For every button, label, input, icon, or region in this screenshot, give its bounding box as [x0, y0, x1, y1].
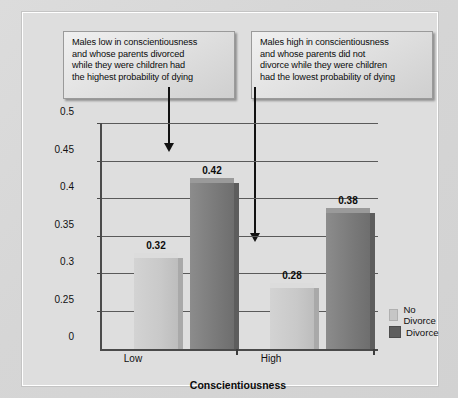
legend-item-no-divorce[interactable]: No Divorce [389, 308, 439, 322]
y-tickmark-0.3 [97, 273, 102, 274]
gridline-0.45 [102, 161, 378, 162]
legend-label-no-divorce: No Divorce [403, 304, 438, 326]
bar-front-face [326, 213, 370, 349]
bar-value-low-no-divorce: 0.32 [133, 240, 179, 251]
legend-label-divorce: Divorce [406, 327, 439, 338]
x-tickmark-high [373, 349, 375, 355]
x-category-label-high: High [236, 353, 306, 364]
bar-value-high-divorce: 0.38 [325, 195, 371, 206]
annotation-right-line-2: and whose parents did not [260, 49, 425, 61]
y-tick-label-0.35: 0.35 [32, 219, 74, 230]
annotation-right-line-1: Males high in conscientiousness [260, 37, 425, 49]
y-tick-label-0.5: 0.5 [32, 106, 74, 117]
plot-area: 0.32 0.42 0.28 0.38 [100, 123, 378, 351]
y-tickmark-0.35 [97, 236, 102, 237]
legend-swatch-divorce [389, 326, 401, 338]
y-tickmark-0.25 [97, 311, 102, 312]
bar-front-face [270, 288, 314, 349]
annotation-left-line-2: and whose parents divorced [72, 49, 227, 61]
bar-side-face [234, 183, 239, 349]
y-tickmark-0.45 [97, 161, 102, 162]
bar-low-no-divorce[interactable] [134, 258, 178, 349]
bar-value-high-no-divorce: 0.28 [269, 270, 315, 281]
bar-low-divorce[interactable] [190, 183, 234, 349]
y-tickmark-0.5 [97, 123, 102, 124]
figure-page: Males low in conscientiousness and whose… [0, 0, 458, 398]
legend-swatch-no-divorce [389, 309, 398, 321]
bar-front-face [134, 258, 178, 349]
annotation-left-line-1: Males low in conscientiousness [72, 37, 227, 49]
bar-high-no-divorce[interactable] [270, 288, 314, 349]
bar-side-face [178, 258, 183, 349]
annotation-callout-right: Males high in conscientiousness and whos… [251, 31, 433, 99]
annotation-right-line-4: had the lowest probability of dying [260, 72, 425, 84]
x-category-label-low: Low [98, 353, 168, 364]
legend: No Divorce Divorce [389, 308, 439, 342]
annotation-right-line-3: divorce while they were children [260, 60, 425, 72]
y-tick-label-0.4: 0.4 [32, 181, 74, 192]
y-tick-label-0: 0 [32, 331, 74, 342]
bar-value-low-divorce: 0.42 [189, 165, 235, 176]
x-axis-title: Conscientiousness [100, 379, 376, 391]
bar-high-divorce[interactable] [326, 213, 370, 349]
legend-item-divorce[interactable]: Divorce [389, 325, 439, 339]
bar-front-face [190, 183, 234, 349]
annotation-left-line-3: while they were children had [72, 60, 227, 72]
y-tick-label-0.3: 0.3 [32, 256, 74, 267]
gridline-0.5 [102, 123, 378, 124]
y-tick-label-0.25: 0.25 [32, 294, 74, 305]
annotation-callout-left: Males low in conscientiousness and whose… [63, 31, 235, 99]
figure-frame: Males low in conscientiousness and whose… [22, 12, 438, 386]
bar-side-face [314, 288, 319, 349]
y-tickmark-0.4 [97, 198, 102, 199]
annotation-left-line-4: the highest probability of dying [72, 72, 227, 84]
y-tick-label-0.45: 0.45 [32, 144, 74, 155]
bar-side-face [370, 213, 375, 349]
